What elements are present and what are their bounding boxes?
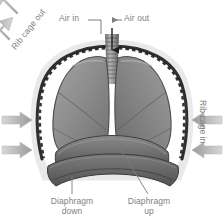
label-diaphragm-up-line1: Diaphragm (128, 196, 170, 206)
rib-cage-out-arrows (0, 0, 18, 40)
label-air-in: Air in (59, 14, 79, 24)
label-diaphragm-down-line1: Diaphragm (51, 196, 93, 206)
label-diaphragm-down-line2: down (62, 206, 83, 216)
label-rib-cage-in: Rib cage in (198, 100, 208, 144)
diaphragm-down-curve (47, 154, 178, 186)
label-diaphragm-up-line2: up (144, 206, 154, 216)
label-air-out: Air out (124, 14, 149, 24)
breathing-diagram (0, 0, 224, 224)
label-diaphragm-down: Diaphragm down (38, 197, 106, 216)
label-diaphragm-up: Diaphragm up (118, 197, 180, 216)
